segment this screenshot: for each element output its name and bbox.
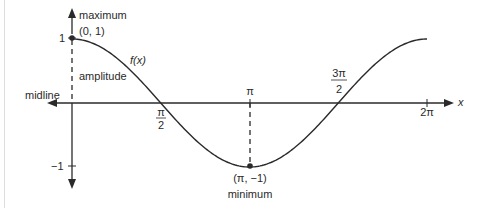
y-tick-label-minus-one: −1 bbox=[51, 160, 64, 172]
maximum-point-label: (0, 1) bbox=[79, 25, 105, 37]
svg-text:2: 2 bbox=[158, 119, 164, 131]
svg-text:2: 2 bbox=[336, 83, 342, 95]
x-tick-label-three-half-pi: 3π 2 bbox=[331, 67, 347, 95]
maximum-label: maximum bbox=[79, 9, 127, 21]
minimum-point bbox=[247, 163, 253, 169]
minimum-point-label: (π, −1) bbox=[233, 172, 267, 184]
y-axis-up-arrow-icon bbox=[68, 8, 76, 18]
x-axis-right-arrow-icon bbox=[444, 99, 454, 107]
svg-text:π: π bbox=[157, 106, 165, 118]
minimum-label: minimum bbox=[228, 188, 273, 200]
cosine-diagram: maximum (0, 1) 1 −1 f(x) amplitude midli… bbox=[0, 0, 482, 208]
y-axis-down-arrow-icon bbox=[68, 179, 76, 189]
function-label: f(x) bbox=[130, 54, 146, 66]
amplitude-label: amplitude bbox=[79, 70, 127, 82]
x-tick-label-half-pi: π 2 bbox=[156, 106, 166, 131]
x-tick-label-two-pi: 2π bbox=[420, 106, 434, 118]
maximum-point bbox=[69, 35, 75, 41]
x-axis-label: x bbox=[457, 96, 464, 108]
midline-label: midline bbox=[25, 89, 60, 101]
y-tick-label-one: 1 bbox=[59, 32, 65, 44]
svg-text:3π: 3π bbox=[332, 67, 346, 79]
x-tick-label-pi: π bbox=[246, 85, 254, 97]
